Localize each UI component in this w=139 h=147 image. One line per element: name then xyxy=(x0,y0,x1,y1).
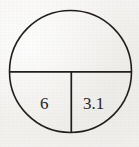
figure-canvas xyxy=(0,0,139,147)
measurement-label-left: 6 xyxy=(40,95,49,112)
geometry-figure: 6 3.1 xyxy=(0,0,139,147)
measurement-label-right: 3.1 xyxy=(83,95,104,112)
